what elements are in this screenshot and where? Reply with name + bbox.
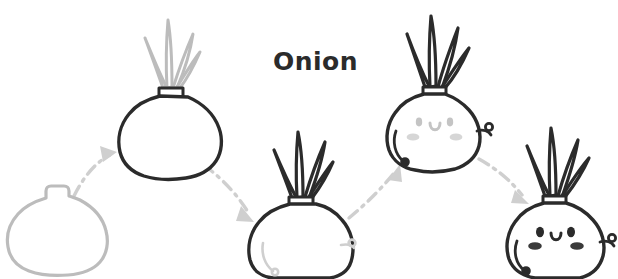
right-blush <box>570 242 584 250</box>
onion-bulb-outline <box>249 204 353 278</box>
left-blush <box>528 242 542 250</box>
left-eye <box>536 227 544 237</box>
right-blush <box>450 133 463 140</box>
illustration-canvas: Onion <box>0 0 618 279</box>
right-eye <box>567 227 575 237</box>
onion-growth-illustration: Onion <box>0 0 618 279</box>
right-eye <box>447 118 453 127</box>
onion-bulb-outline <box>119 96 222 179</box>
page-title: Onion <box>273 47 358 76</box>
left-blush <box>407 133 420 140</box>
left-eye <box>416 118 422 127</box>
